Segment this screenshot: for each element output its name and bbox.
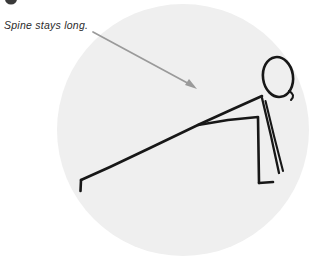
circle-backdrop	[57, 4, 309, 256]
illustration-canvas	[0, 0, 323, 262]
hand-hook	[81, 180, 82, 191]
front-foot	[259, 182, 273, 183]
annotation-label: Spine stays long.	[4, 20, 88, 31]
illustration-figure: Spine stays long.	[0, 0, 323, 262]
cropped-step-badge	[5, 0, 17, 5]
